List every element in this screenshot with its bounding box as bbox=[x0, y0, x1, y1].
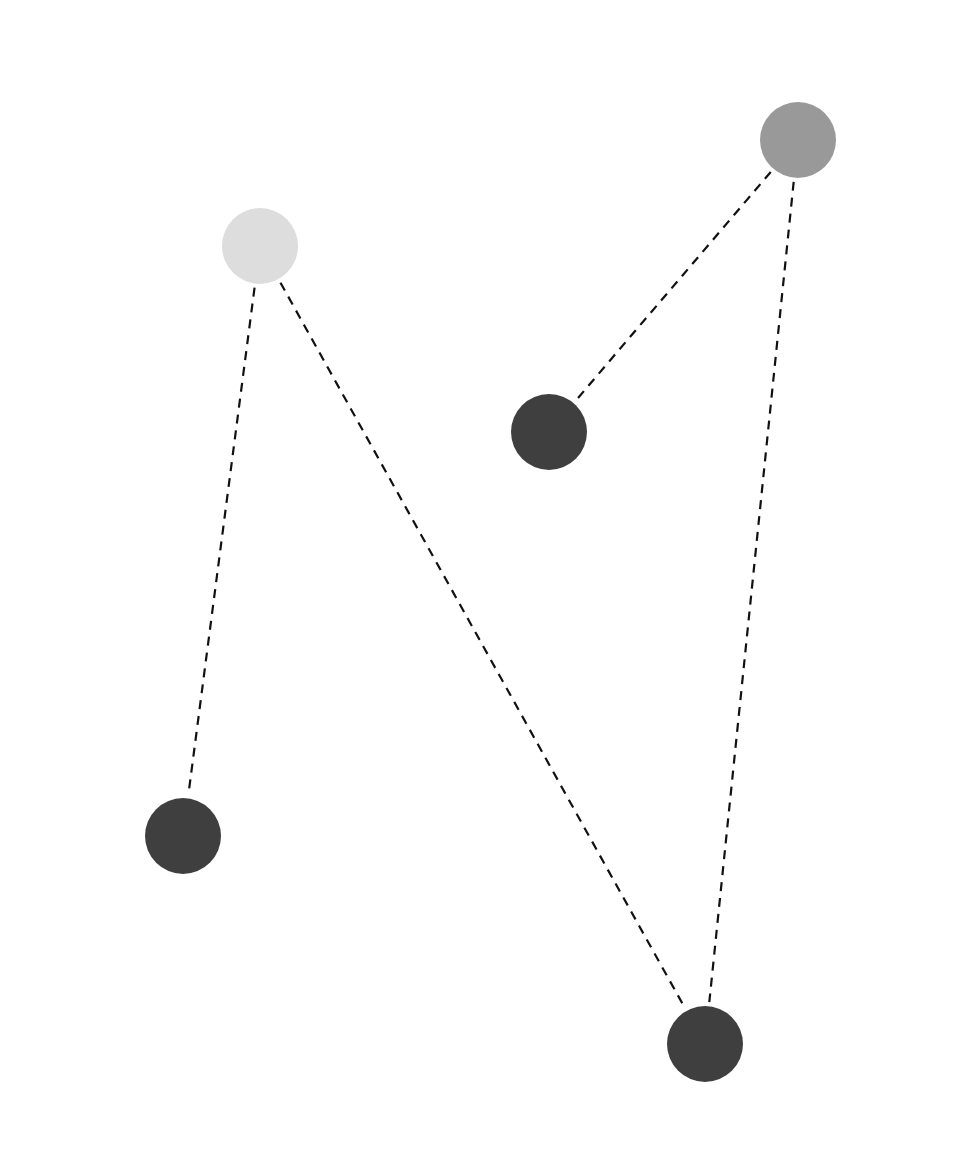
edge-B-E bbox=[709, 182, 793, 1002]
node-E bbox=[667, 1006, 743, 1082]
edges-layer bbox=[188, 172, 793, 1007]
node-A bbox=[222, 208, 298, 284]
node-D bbox=[145, 798, 221, 874]
node-B bbox=[760, 102, 836, 178]
edge-A-D bbox=[188, 288, 254, 795]
edge-A-E bbox=[280, 283, 684, 1008]
node-C bbox=[511, 394, 587, 470]
edge-B-C bbox=[576, 172, 770, 400]
graph-diagram bbox=[0, 0, 977, 1167]
nodes-layer bbox=[145, 102, 836, 1082]
